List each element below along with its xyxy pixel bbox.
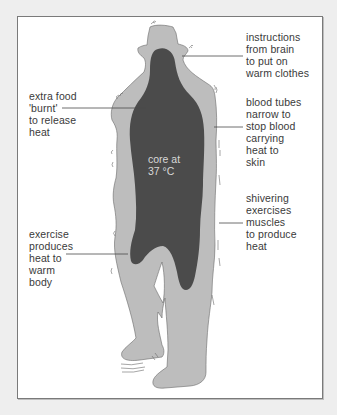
annotation-brain: instructions from brain to put on warm c… bbox=[246, 31, 309, 79]
annotation-exercise: exercise produces heat to warm body bbox=[29, 228, 73, 288]
shiver-mark-brim bbox=[189, 45, 193, 48]
shiver-mark-left-side bbox=[111, 150, 115, 274]
core-temperature-label: core at 37 °C bbox=[148, 153, 180, 177]
shiver-mark-hat bbox=[151, 21, 156, 24]
annotation-food: extra food 'burnt' to release heat bbox=[29, 90, 77, 138]
annotation-shivering: shivering exercises muscles to produce h… bbox=[246, 192, 297, 252]
annotation-blood: blood tubes narrow to stop blood carryin… bbox=[246, 96, 301, 168]
shiver-mark-right-shoulder bbox=[214, 85, 217, 93]
